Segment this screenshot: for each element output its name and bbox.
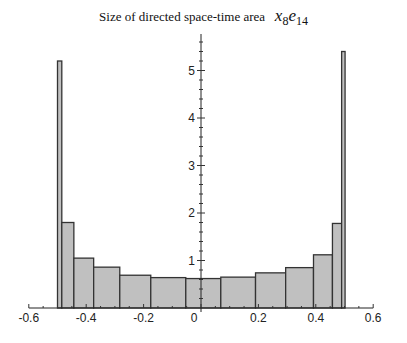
x-tick-label: -0.6 [18,311,39,325]
histogram-plot: -0.6-0.4-0.200.20.40.612345 [0,0,407,343]
x-tick-label: 0.6 [365,311,382,325]
histogram-bar [186,279,221,308]
histogram-bar [342,52,345,309]
x-tick-label: 0 [191,311,198,325]
histogram-bar [94,267,120,308]
y-tick-label: 2 [188,206,195,220]
y-tick-label: 5 [188,64,195,78]
y-tick-label: 3 [188,159,195,173]
histogram-bar [62,223,74,309]
histogram-bar [286,268,314,308]
histogram-bar [256,273,286,308]
histogram-bar [120,275,151,308]
histogram-bar [314,255,333,308]
y-tick-label: 4 [188,111,195,125]
x-tick-label: 0.2 [250,311,267,325]
x-tick-label: 0.4 [307,311,324,325]
x-tick-label: -0.4 [76,311,97,325]
y-tick-label: 1 [188,254,195,268]
histogram-bar [151,278,186,308]
histogram-bar [74,258,94,308]
histogram-bar [221,277,256,308]
histogram-bar [332,223,341,308]
x-tick-label: -0.2 [133,311,154,325]
